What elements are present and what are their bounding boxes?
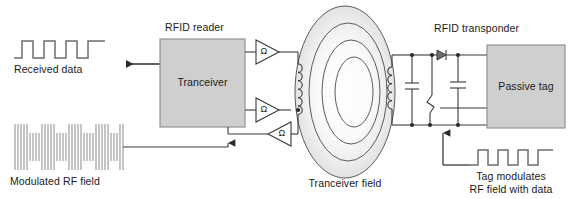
transceiver-field-graphic <box>295 6 395 178</box>
amplifier-top-omega-icon: Ω <box>256 46 272 56</box>
received-data-label: Received data <box>14 63 82 75</box>
passive-tag-label: Passive tag <box>487 80 565 92</box>
tag-modulation-arrow <box>443 133 470 165</box>
amplifier-middle-omega-icon: Ω <box>256 104 272 114</box>
modulated-rf-field-label: Modulated RF field <box>10 175 100 187</box>
transceiver-box-label: Tranceiver <box>160 76 245 88</box>
rfid-system-diagram: Received data Modulated RF field RFID re… <box>0 0 572 199</box>
tag-modulated-waveform <box>470 150 553 165</box>
rfid-reader-label: RFID reader <box>165 21 224 33</box>
tag-modulates-line-2: RF field with data <box>455 183 567 196</box>
transponder-circuit <box>405 50 487 127</box>
rfid-transponder-label: RFID transponder <box>434 22 519 34</box>
amplifier-bottom-omega-icon: Ω <box>274 128 290 138</box>
tag-modulates-label: Tag modulates RF field with data <box>455 170 567 195</box>
received-data-waveform <box>14 41 105 58</box>
modulated-field-feed-line <box>123 143 228 147</box>
transceiver-field-label: Tranceiver field <box>295 177 395 189</box>
tag-modulates-line-1: Tag modulates <box>455 170 567 183</box>
modulated-rf-field-waveform <box>15 124 123 170</box>
